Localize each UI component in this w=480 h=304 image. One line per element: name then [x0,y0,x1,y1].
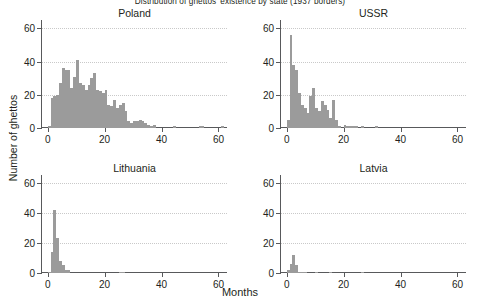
x-tick-label-latvia-40: 40 [395,279,406,290]
y-tick-ussr-0 [276,128,281,129]
x-tick-poland-0 [48,128,49,132]
x-tick-label-lithuania-40: 40 [156,279,167,290]
x-tick-poland-40 [162,128,163,132]
panel-title-lithuania: Lithuania [42,162,227,174]
x-tick-label-ussr-40: 40 [395,134,406,145]
bar [361,126,364,128]
x-tick-lithuania-20 [105,273,106,277]
x-tick-poland-60 [218,128,219,132]
bar [355,126,358,128]
x-tick-label-latvia-20: 20 [338,279,349,290]
gridline-poland-60 [42,28,227,29]
y-tick-label-latvia-60: 60 [263,177,274,188]
y-axis-spine-latvia [280,175,281,273]
x-tick-label-lithuania-20: 20 [99,279,110,290]
x-tick-label-latvia-0: 0 [284,279,290,290]
x-tick-lithuania-40 [162,273,163,277]
bar [153,125,156,128]
y-tick-poland-60 [37,28,42,29]
x-tick-label-ussr-20: 20 [338,134,349,145]
y-axis-spine-lithuania [41,175,42,273]
x-tick-latvia-0 [287,273,288,277]
y-tick-lithuania-40 [37,213,42,214]
x-tick-label-latvia-60: 60 [452,279,463,290]
y-tick-label-lithuania-60: 60 [24,177,35,188]
bar [304,272,307,274]
y-tick-label-lithuania-0: 0 [29,268,35,279]
y-tick-poland-40 [37,62,42,63]
y-tick-label-poland-20: 20 [24,89,35,100]
y-tick-label-ussr-60: 60 [263,23,274,34]
y-tick-lithuania-0 [37,273,42,274]
y-tick-label-poland-60: 60 [24,23,35,34]
panel-latvia: Latvia 02040600204060 [281,175,466,273]
x-tick-label-poland-20: 20 [99,134,110,145]
y-tick-ussr-20 [276,95,281,96]
bar [329,272,332,274]
plot-area-ussr: 02040600204060 [281,20,466,128]
gridline-ussr-60 [281,28,466,29]
y-tick-latvia-60 [276,183,281,184]
x-axis-spine-latvia [280,272,466,273]
bar [221,126,224,128]
gridline-latvia-60 [281,183,466,184]
y-axis-label: Number of ghettos [7,73,19,203]
x-tick-poland-20 [105,128,106,132]
y-tick-ussr-60 [276,28,281,29]
gridline-ussr-40 [281,62,466,63]
bar [338,126,341,128]
y-tick-lithuania-60 [37,183,42,184]
panel-title-poland: Poland [42,7,227,19]
panel-poland: Poland 02040600204060 [42,20,227,128]
x-tick-ussr-60 [457,128,458,132]
y-tick-label-latvia-20: 20 [263,237,274,248]
y-tick-latvia-0 [276,273,281,274]
x-tick-lithuania-60 [218,273,219,277]
gridline-lithuania-20 [42,243,227,244]
gridline-latvia-40 [281,213,466,214]
y-tick-label-latvia-40: 40 [263,207,274,218]
x-tick-label-poland-40: 40 [156,134,167,145]
y-tick-poland-0 [37,128,42,129]
panel-lithuania: Lithuania 02040600204060 [42,175,227,273]
y-axis-spine-poland [41,20,42,128]
y-tick-label-poland-40: 40 [24,56,35,67]
x-tick-ussr-20 [344,128,345,132]
plot-area-poland: 02040600204060 [42,20,227,128]
x-tick-label-poland-0: 0 [45,134,51,145]
bar [201,126,204,128]
bar [375,126,378,128]
y-tick-label-ussr-0: 0 [268,123,274,134]
x-tick-latvia-20 [344,273,345,277]
bar [122,272,125,274]
x-tick-label-ussr-0: 0 [284,134,290,145]
gridline-lithuania-60 [42,183,227,184]
y-tick-poland-20 [37,95,42,96]
gridline-poland-40 [42,62,227,63]
panel-ussr: USSR 02040600204060 [281,20,466,128]
bar [361,272,364,274]
figure-suptitle: Distribution of ghettos' existence by st… [0,0,480,6]
x-tick-label-lithuania-0: 0 [45,279,51,290]
y-tick-label-ussr-20: 20 [263,89,274,100]
panel-title-latvia: Latvia [281,162,466,174]
x-tick-label-lithuania-60: 60 [213,279,224,290]
figure-root: Distribution of ghettos' existence by st… [0,0,480,304]
gridline-lithuania-40 [42,213,227,214]
x-tick-latvia-40 [401,273,402,277]
x-tick-latvia-60 [457,273,458,277]
x-tick-label-ussr-60: 60 [452,134,463,145]
bar [173,126,176,128]
y-tick-lithuania-20 [37,243,42,244]
plot-area-latvia: 02040600204060 [281,175,466,273]
y-tick-label-lithuania-20: 20 [24,237,35,248]
y-tick-latvia-20 [276,243,281,244]
bar [68,270,71,273]
gridline-latvia-20 [281,243,466,244]
x-tick-ussr-40 [401,128,402,132]
x-axis-label: Months [0,286,480,298]
bar [315,272,318,274]
y-tick-label-lithuania-40: 40 [24,207,35,218]
y-tick-ussr-40 [276,62,281,63]
x-tick-lithuania-0 [48,273,49,277]
